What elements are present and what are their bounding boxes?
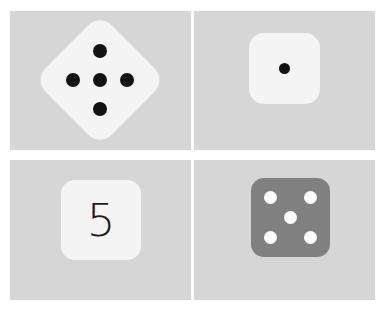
pip-top-right: [304, 191, 317, 204]
pip-layer: [53, 33, 147, 127]
panel-top-left: [10, 11, 191, 150]
gray-die-five: [251, 178, 330, 257]
pip-bottom-right: [304, 231, 317, 244]
dice-figure: 5: [10, 11, 375, 300]
numeral-text: 5: [87, 198, 116, 243]
pip-center: [279, 63, 290, 74]
pip-right: [120, 73, 134, 87]
numeral-card-five: 5: [61, 180, 141, 260]
panel-bottom-right: [194, 160, 375, 300]
pip-bottom: [93, 102, 107, 116]
pip-bottom-left: [264, 231, 277, 244]
pip-center: [93, 73, 107, 87]
die-one: [249, 33, 320, 104]
pip-left: [66, 73, 80, 87]
pip-center: [284, 211, 297, 224]
panel-top-right: [194, 11, 375, 150]
pip-top-left: [264, 191, 277, 204]
panel-bottom-left: 5: [10, 160, 191, 300]
rotated-die-five: [34, 14, 167, 147]
pip-top: [93, 44, 107, 58]
